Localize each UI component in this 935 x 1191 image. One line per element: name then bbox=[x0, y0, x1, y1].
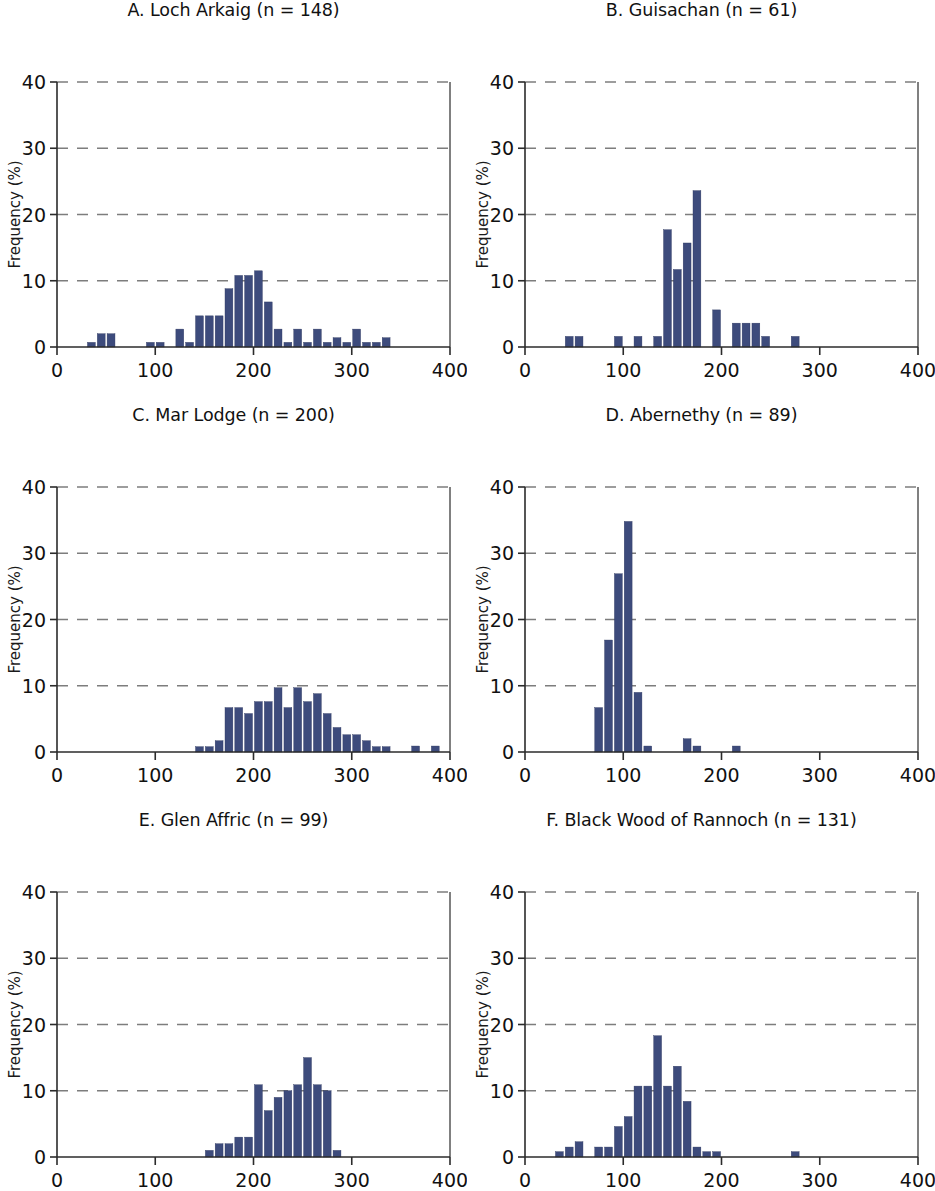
histogram-bar bbox=[634, 692, 642, 752]
histogram-bar bbox=[254, 1085, 262, 1157]
x-tick-label: 200 bbox=[703, 764, 739, 786]
x-tick-label: 200 bbox=[235, 764, 271, 786]
x-tick-label: 100 bbox=[137, 764, 173, 786]
y-tick-label: 20 bbox=[22, 609, 46, 631]
x-tick-label: 300 bbox=[334, 1169, 370, 1191]
histogram-bar bbox=[245, 714, 253, 752]
panel-f: F. Black Wood of Rannoch (n = 131)010203… bbox=[468, 810, 935, 1191]
histogram-bar bbox=[97, 334, 105, 347]
histogram-bar bbox=[644, 1086, 652, 1157]
histogram-bar bbox=[215, 316, 223, 347]
histogram-bar bbox=[205, 1150, 213, 1157]
histogram-bar bbox=[343, 735, 351, 752]
x-tick-label: 0 bbox=[519, 359, 531, 381]
x-axis-label: Age in 10-year classes bbox=[166, 794, 341, 795]
histogram-bar bbox=[323, 1091, 331, 1157]
histogram-bar bbox=[196, 316, 204, 347]
panel-title: A. Loch Arkaig (n = 148) bbox=[0, 0, 467, 20]
y-tick-label: 30 bbox=[490, 137, 514, 159]
x-tick-label: 0 bbox=[519, 764, 531, 786]
histogram-bar bbox=[624, 521, 632, 752]
histogram-bar bbox=[215, 1144, 223, 1157]
x-tick-label: 400 bbox=[432, 359, 467, 381]
histogram-bar bbox=[235, 708, 243, 752]
y-axis-label: Frequency (%) bbox=[474, 970, 492, 1078]
histogram-svg: 0102030400100200300400Age in 10-year cla… bbox=[0, 840, 467, 1191]
y-tick-label: 40 bbox=[22, 71, 46, 93]
histogram-bar bbox=[673, 269, 681, 347]
histogram-bar bbox=[664, 1086, 672, 1157]
histogram-bar bbox=[274, 1097, 282, 1157]
bar-group bbox=[87, 271, 390, 347]
histogram-bar bbox=[313, 329, 321, 347]
histogram-bar bbox=[634, 336, 642, 347]
y-tick-label: 20 bbox=[490, 609, 514, 631]
histogram-bar bbox=[412, 746, 420, 752]
panel-d: D. Abernethy (n = 89)0102030400100200300… bbox=[468, 405, 935, 800]
x-tick-label: 200 bbox=[235, 359, 271, 381]
y-tick-label: 20 bbox=[22, 204, 46, 226]
x-tick-label: 300 bbox=[802, 764, 838, 786]
histogram-bar bbox=[294, 329, 302, 347]
x-tick-label: 0 bbox=[519, 1169, 531, 1191]
histogram-svg: 0102030400100200300400Age in 10-year cla… bbox=[468, 840, 935, 1191]
x-tick-label: 200 bbox=[235, 1169, 271, 1191]
histogram-bar bbox=[595, 708, 603, 752]
histogram-bar bbox=[294, 1085, 302, 1157]
x-tick-label: 100 bbox=[605, 359, 641, 381]
histogram-bar bbox=[752, 323, 760, 347]
histogram-bar bbox=[176, 329, 184, 347]
y-tick-label: 20 bbox=[490, 204, 514, 226]
histogram-bar bbox=[654, 336, 662, 347]
x-tick-label: 300 bbox=[334, 764, 370, 786]
panel-a: A. Loch Arkaig (n = 148)0102030400100200… bbox=[0, 0, 467, 395]
panel-b: B. Guisachan (n = 61)0102030400100200300… bbox=[468, 0, 935, 395]
histogram-bar bbox=[304, 1058, 312, 1157]
histogram-bar bbox=[245, 275, 253, 347]
histogram-bar bbox=[683, 243, 691, 347]
histogram-bar bbox=[294, 688, 302, 752]
histogram-bar bbox=[683, 1101, 691, 1157]
panel-title: E. Glen Affric (n = 99) bbox=[0, 810, 467, 830]
y-tick-label: 40 bbox=[490, 71, 514, 93]
y-tick-label: 40 bbox=[490, 881, 514, 903]
histogram-bar bbox=[333, 1150, 341, 1157]
histogram-bar bbox=[382, 338, 390, 347]
y-axis-label: Frequency (%) bbox=[474, 160, 492, 268]
y-tick-label: 10 bbox=[22, 270, 46, 292]
y-axis-label: Frequency (%) bbox=[6, 970, 24, 1078]
panel-e: E. Glen Affric (n = 99)01020304001002003… bbox=[0, 810, 467, 1191]
x-tick-label: 300 bbox=[802, 1169, 838, 1191]
histogram-bar bbox=[235, 1137, 243, 1157]
histogram-bar bbox=[264, 302, 272, 347]
y-tick-label: 0 bbox=[34, 741, 46, 763]
y-tick-label: 10 bbox=[22, 1080, 46, 1102]
panel-title: D. Abernethy (n = 89) bbox=[468, 405, 935, 425]
histogram-bar bbox=[624, 1117, 632, 1157]
histogram-bar bbox=[575, 336, 583, 347]
y-tick-label: 40 bbox=[22, 881, 46, 903]
y-tick-label: 30 bbox=[490, 947, 514, 969]
histogram-bar bbox=[644, 746, 652, 752]
histogram-bar bbox=[605, 1147, 613, 1157]
histogram-bar bbox=[614, 1127, 622, 1157]
plot-area: 0102030400100200300400Age in 10-year cla… bbox=[468, 840, 935, 1191]
bar-group bbox=[565, 191, 799, 347]
plot-area: 0102030400100200300400Age in 10-year cla… bbox=[0, 30, 467, 425]
histogram-bar bbox=[614, 336, 622, 347]
y-tick-label: 30 bbox=[490, 542, 514, 564]
bar-group bbox=[555, 1036, 799, 1157]
histogram-bar bbox=[664, 230, 672, 347]
x-tick-label: 200 bbox=[703, 359, 739, 381]
histogram-bar bbox=[673, 1066, 681, 1157]
x-tick-label: 0 bbox=[51, 359, 63, 381]
y-tick-label: 30 bbox=[22, 947, 46, 969]
histogram-bar bbox=[313, 1085, 321, 1157]
histogram-bar bbox=[254, 702, 262, 752]
y-axis-label: Frequency (%) bbox=[6, 160, 24, 268]
y-tick-label: 30 bbox=[22, 542, 46, 564]
histogram-bar bbox=[693, 746, 701, 752]
histogram-bar bbox=[762, 336, 770, 347]
histogram-bar bbox=[565, 336, 573, 347]
